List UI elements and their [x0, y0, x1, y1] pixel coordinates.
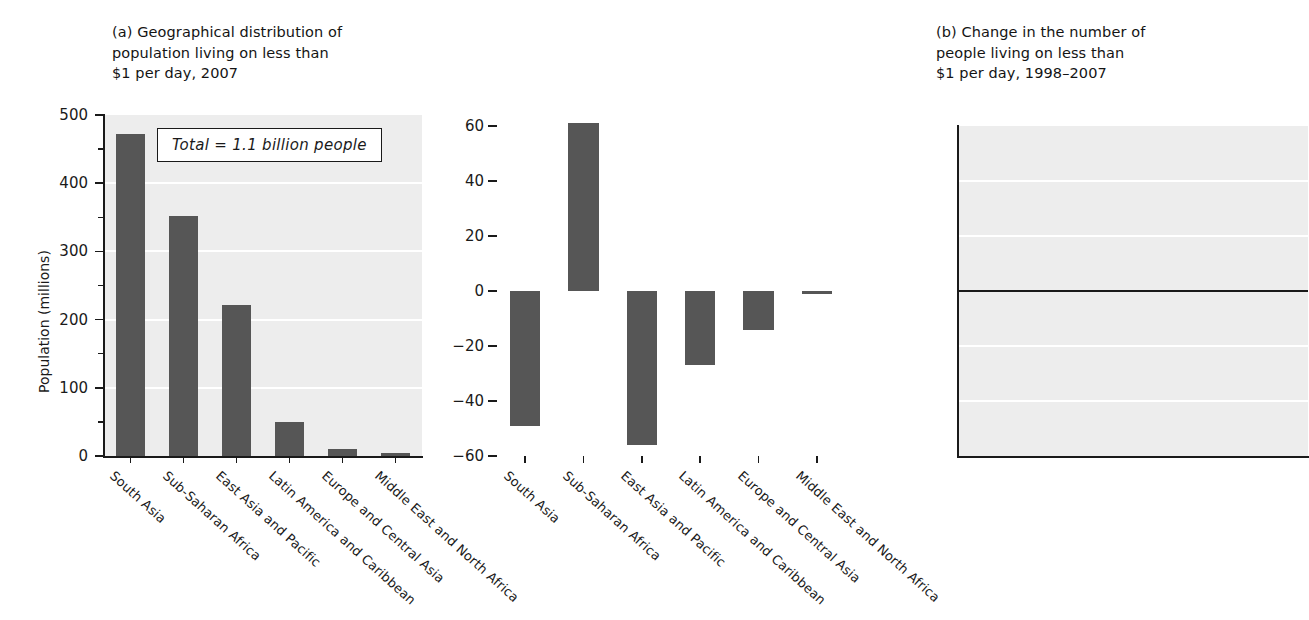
gridline: [104, 182, 422, 184]
gridline: [958, 400, 1308, 402]
x-tick: [130, 456, 132, 463]
y-tick-minor: [98, 353, 104, 355]
y-tick-label: 400: [36, 174, 88, 192]
y-tick-major: [95, 387, 104, 389]
y-tick-major: [488, 455, 497, 457]
x-tick: [289, 456, 291, 463]
category-label: Europe and Central Asia: [734, 468, 863, 586]
y-tick-label: −60: [438, 447, 484, 465]
panel-a-plot-area: [104, 115, 422, 456]
x-tick: [816, 456, 818, 463]
y-tick-label: −20: [438, 337, 484, 355]
y-tick-minor: [98, 148, 104, 150]
panel-a: (a) Geographical distribution of populat…: [0, 0, 462, 620]
y-tick-major: [95, 114, 104, 116]
y-tick-minor: [98, 217, 104, 219]
bar[interactable]: [510, 291, 540, 426]
y-tick-label: 500: [36, 106, 88, 124]
x-tick: [342, 456, 344, 463]
x-tick: [524, 456, 526, 463]
bar[interactable]: [275, 422, 305, 456]
gridline: [958, 180, 1308, 182]
y-tick-label: 40: [438, 172, 484, 190]
bar[interactable]: [627, 291, 657, 445]
category-label: East Asia and Pacific: [618, 468, 729, 570]
y-tick-label: 0: [438, 282, 484, 300]
y-tick-major: [488, 345, 497, 347]
y-tick-major: [95, 455, 104, 457]
y-tick-label: 20: [438, 227, 484, 245]
y-tick-major: [488, 235, 497, 237]
y-tick-major: [95, 319, 104, 321]
bar[interactable]: [743, 291, 773, 330]
y-tick-major: [488, 125, 497, 127]
panel-a-title: (a) Geographical distribution of populat…: [112, 22, 442, 84]
category-label: Sub-Saharan Africa: [559, 468, 663, 564]
x-tick: [758, 456, 760, 463]
category-label: South Asia: [501, 468, 563, 526]
zero-line: [958, 290, 1308, 292]
y-tick-major: [488, 180, 497, 182]
gridline: [958, 235, 1308, 237]
category-label: South Asia: [106, 468, 168, 526]
panel-a-x-axis-line: [103, 456, 423, 458]
bar[interactable]: [116, 134, 146, 456]
gridline: [958, 345, 1308, 347]
y-tick-minor: [98, 421, 104, 423]
x-tick: [183, 456, 185, 463]
x-tick: [395, 456, 397, 463]
panel-a-annotation-box: Total = 1.1 billion people: [157, 128, 382, 162]
y-tick-major: [95, 251, 104, 253]
y-tick-label: −40: [438, 392, 484, 410]
panel-b: (b) Change in the number of people livin…: [462, 0, 924, 620]
panel-b-y-axis-line: [957, 125, 959, 457]
y-tick-major: [488, 400, 497, 402]
x-tick: [699, 456, 701, 463]
x-tick: [583, 456, 585, 463]
y-tick-minor: [98, 285, 104, 287]
bar[interactable]: [328, 449, 358, 456]
gridline: [104, 387, 422, 389]
y-tick-label: 60: [438, 117, 484, 135]
y-tick-major: [95, 182, 104, 184]
x-tick: [641, 456, 643, 463]
category-label: East Asia and Pacific: [212, 468, 323, 570]
panel-b-title: (b) Change in the number of people livin…: [936, 22, 1276, 84]
gridline: [104, 250, 422, 252]
y-tick-major: [488, 290, 497, 292]
y-tick-label: 100: [36, 379, 88, 397]
bar[interactable]: [685, 291, 715, 365]
y-tick-label: 300: [36, 242, 88, 260]
panel-b-plot-area: [958, 126, 1308, 456]
bar[interactable]: [802, 291, 832, 294]
panel-b-x-axis-line: [957, 456, 1309, 458]
gridline: [104, 319, 422, 321]
bar[interactable]: [169, 216, 199, 456]
bar[interactable]: [222, 305, 252, 456]
category-label: Sub-Saharan Africa: [159, 468, 263, 564]
x-tick: [236, 456, 238, 463]
y-tick-label: 0: [36, 447, 88, 465]
bar[interactable]: [568, 123, 598, 291]
y-tick-label: 200: [36, 311, 88, 329]
